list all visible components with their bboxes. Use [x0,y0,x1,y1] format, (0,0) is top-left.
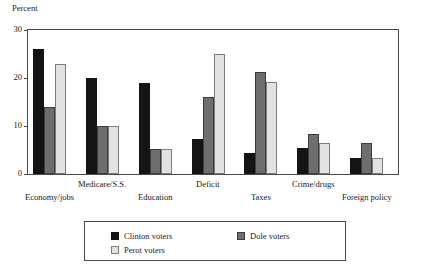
y-axis-title: Percent [12,3,38,13]
bar [150,149,161,174]
plot-area: 0102030 [28,30,398,174]
category-label: Education [138,192,172,202]
bar-chart-figure: Percent 0102030 Economy/jobsMedicare/S.S… [0,0,429,270]
legend-swatch-dole-voters [237,232,245,240]
bar [33,49,44,174]
legend-label-clinton-voters: Clinton voters [124,231,172,241]
bar [55,64,66,174]
legend-swatch-perot-voters [111,246,119,254]
bar [297,148,308,174]
category-label: Medicare/S.S. [78,179,126,189]
y-axis-tick-label: 0 [18,168,22,179]
legend-swatch-clinton-voters [111,232,119,240]
category-label: Foreign policy [342,192,392,202]
y-axis-tick-label: 20 [14,72,23,83]
bar-group [297,30,330,174]
plot-frame: 0102030 [27,29,399,175]
y-axis-tick-mark [24,30,28,31]
bar [203,97,214,174]
bar [319,143,330,174]
legend-label-perot-voters: Perot voters [124,245,165,255]
legend-entry-dole-voters: Dole voters [237,231,289,241]
legend-entry-clinton-voters: Clinton voters [111,231,172,241]
bar [255,72,266,174]
bar-group [244,30,277,174]
y-axis-tick-label: 10 [14,120,23,131]
bar-group [192,30,225,174]
bar-group [33,30,66,174]
y-axis-tick-mark [24,126,28,127]
y-axis-tick-mark [24,174,28,175]
bar [244,153,255,174]
y-axis-tick-mark [24,78,28,79]
category-label: Crime/drugs [292,179,335,189]
bar [350,158,361,174]
legend-entry-perot-voters: Perot voters [111,245,165,255]
bar [361,143,372,174]
category-label: Economy/jobs [25,192,74,202]
bar [266,82,277,174]
bar [214,54,225,174]
y-axis-tick-label: 30 [14,24,23,35]
bar [308,134,319,174]
bar [97,126,108,174]
bar [86,78,97,174]
category-label: Deficit [196,179,220,189]
bar [161,149,172,174]
bar [139,83,150,174]
bar-group [350,30,383,174]
bar [372,158,383,174]
bar [44,107,55,174]
chart-legend: Clinton voters Dole voters Perot voters [84,221,346,261]
category-label: Taxes [251,192,271,202]
bar [192,139,203,174]
bar [108,126,119,174]
bar-group [86,30,119,174]
bar-group [139,30,172,174]
legend-label-dole-voters: Dole voters [250,231,289,241]
